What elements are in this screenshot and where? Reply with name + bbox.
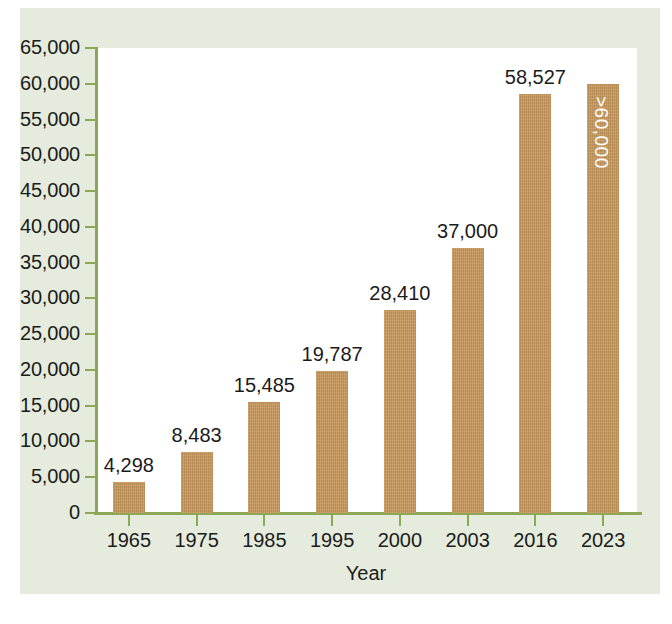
- x-axis-tick-label: 1995: [297, 529, 367, 552]
- y-axis-tick-mark: [85, 47, 95, 49]
- bar: [248, 402, 280, 513]
- y-axis-tick-label: 55,000: [0, 108, 80, 128]
- x-axis-tick-label: 1985: [229, 529, 299, 552]
- bar: [452, 248, 484, 513]
- y-axis-tick-label-text: 0: [0, 501, 80, 524]
- x-axis-tick-mark: [534, 515, 536, 526]
- y-axis-tick-label-text: 30,000: [0, 286, 80, 309]
- x-axis-tick-mark: [128, 515, 130, 526]
- y-axis-tick-mark: [85, 333, 95, 335]
- y-axis-tick-mark: [85, 83, 95, 85]
- y-axis-tick-label: 0: [0, 501, 80, 521]
- x-axis-tick-label: 2023: [568, 529, 638, 552]
- bar: [316, 371, 348, 513]
- y-axis-tick-label-text: 65,000: [0, 36, 80, 59]
- y-axis-tick-label: 45,000: [0, 179, 80, 199]
- y-axis-tick-mark: [85, 297, 95, 299]
- bar: [519, 94, 551, 513]
- y-axis-tick-label: 20,000: [0, 358, 80, 378]
- y-axis-tick-mark: [85, 512, 95, 514]
- y-axis-tick-label-text: 40,000: [0, 215, 80, 238]
- x-axis-tick-label: 2016: [500, 529, 570, 552]
- y-axis-tick-label: 25,000: [0, 322, 80, 342]
- bar-value-label: >60,000: [590, 96, 612, 169]
- x-axis-tick-mark: [602, 515, 604, 526]
- x-axis-tick-mark: [331, 515, 333, 526]
- bar-value-label: 28,410: [335, 282, 465, 305]
- y-axis-tick-label-text: 60,000: [0, 72, 80, 95]
- bar: [384, 310, 416, 513]
- bar: [113, 482, 145, 513]
- x-axis-title: Year: [95, 562, 637, 585]
- bar-value-label: 58,527: [470, 66, 600, 89]
- y-axis-tick-label: 40,000: [0, 215, 80, 235]
- x-axis-line: [94, 512, 642, 515]
- y-axis-tick-label-text: 20,000: [0, 358, 80, 381]
- y-axis-tick-mark: [85, 226, 95, 228]
- y-axis-tick-label: 65,000: [0, 36, 80, 56]
- y-axis-tick-mark: [85, 190, 95, 192]
- x-axis-tick-label: 1975: [162, 529, 232, 552]
- y-axis-tick-mark: [85, 405, 95, 407]
- x-axis-tick-mark: [263, 515, 265, 526]
- y-axis-tick-mark: [85, 154, 95, 156]
- y-axis-tick-mark: [85, 119, 95, 121]
- x-axis-tick-mark: [399, 515, 401, 526]
- y-axis-tick-label: 50,000: [0, 143, 80, 163]
- y-axis-tick-label-text: 10,000: [0, 429, 80, 452]
- y-axis-tick-label-text: 45,000: [0, 179, 80, 202]
- x-axis-tick-label: 2000: [365, 529, 435, 552]
- y-axis-tick-mark: [85, 440, 95, 442]
- x-axis-tick-label: 1965: [94, 529, 164, 552]
- x-axis-tick-mark: [196, 515, 198, 526]
- y-axis-tick-label: 60,000: [0, 72, 80, 92]
- x-axis-tick-label: 2003: [433, 529, 503, 552]
- y-axis-tick-label-text: 15,000: [0, 394, 80, 417]
- y-axis-tick-label: 15,000: [0, 394, 80, 414]
- bar: [181, 452, 213, 513]
- x-axis-tick-mark: [467, 515, 469, 526]
- y-axis-tick-label: 10,000: [0, 429, 80, 449]
- y-axis-tick-mark: [85, 369, 95, 371]
- y-axis-tick-label-text: 35,000: [0, 251, 80, 274]
- bar-value-label: 15,485: [199, 374, 329, 397]
- y-axis-tick-label: 35,000: [0, 251, 80, 271]
- bar-value-label: 37,000: [403, 220, 533, 243]
- y-axis-tick-label-text: 50,000: [0, 143, 80, 166]
- y-axis-tick-mark: [85, 262, 95, 264]
- y-axis-line: [95, 47, 98, 515]
- y-axis-tick-label: 30,000: [0, 286, 80, 306]
- bar-value-label: 8,483: [132, 424, 262, 447]
- y-axis-tick-label-text: 25,000: [0, 322, 80, 345]
- bar-value-label: 19,787: [267, 343, 397, 366]
- bar-value-label: 4,298: [64, 454, 194, 477]
- y-axis-tick-label-text: 55,000: [0, 108, 80, 131]
- chart-figure: 05,00010,00015,00020,00025,00030,00035,0…: [0, 0, 672, 624]
